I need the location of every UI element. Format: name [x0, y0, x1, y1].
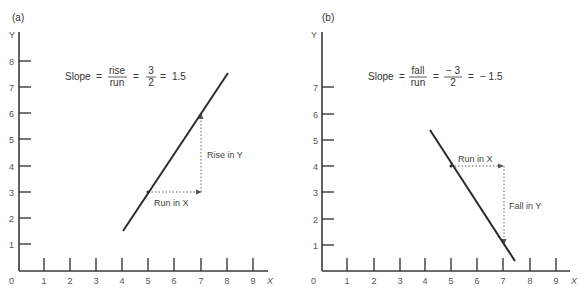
x-axis-label: X: [266, 276, 274, 286]
svg-text:7: 7: [9, 83, 14, 93]
svg-text:1: 1: [41, 276, 46, 286]
svg-text:5: 5: [145, 276, 150, 286]
svg-text:1: 1: [313, 241, 318, 251]
svg-text:− 1.5: − 1.5: [480, 71, 503, 82]
svg-text:3: 3: [9, 188, 14, 198]
svg-text:3: 3: [313, 188, 318, 198]
line-negative-slope: [430, 130, 515, 261]
y-tick-labels: 7 6 5 4 3 2 1: [313, 83, 318, 251]
svg-text:5: 5: [9, 135, 14, 145]
slope-figure: (a) Y X 0 8 7 6 5 4 3 2 1: [0, 0, 583, 291]
svg-text:2: 2: [67, 276, 72, 286]
svg-text:6: 6: [171, 276, 176, 286]
panel-b: (b) Y X 0 7 6 5 4 3 2 1: [311, 12, 578, 286]
svg-text:7: 7: [500, 276, 505, 286]
svg-text:4: 4: [9, 162, 14, 172]
svg-text:9: 9: [553, 276, 558, 286]
svg-text:7: 7: [313, 83, 318, 93]
run-label-a: Run in X: [154, 198, 189, 208]
svg-text:6: 6: [9, 109, 14, 119]
svg-text:5: 5: [313, 136, 318, 146]
svg-text:=: =: [96, 71, 102, 82]
svg-text:2: 2: [9, 214, 14, 224]
panel-b-label: (b): [322, 12, 334, 23]
x-ticks: [44, 258, 253, 271]
svg-text:5: 5: [448, 276, 453, 286]
svg-text:8: 8: [9, 57, 14, 67]
svg-text:2: 2: [148, 77, 154, 88]
fall-label-b: Fall in Y: [509, 201, 541, 211]
svg-text:8: 8: [527, 276, 532, 286]
panel-a-label: (a): [12, 12, 24, 23]
svg-text:=: =: [133, 71, 139, 82]
svg-text:4: 4: [119, 276, 124, 286]
svg-text:9: 9: [250, 276, 255, 286]
svg-text:Slope: Slope: [65, 71, 91, 82]
svg-text:=: =: [399, 71, 405, 82]
svg-text:rise: rise: [109, 65, 126, 76]
x-ticks: [347, 258, 556, 271]
y-axis-label: Y: [311, 30, 317, 40]
x-tick-labels: 1 2 3 4 5 6 7 8 9: [344, 276, 558, 286]
y-axis-label: Y: [9, 30, 15, 40]
x-tick-labels: 1 2 3 4 5 6 7 8 9: [41, 276, 255, 286]
arrowhead-icon: [498, 164, 504, 169]
panel-a: (a) Y X 0 8 7 6 5 4 3 2 1: [9, 12, 274, 286]
svg-text:fall: fall: [412, 65, 425, 76]
origin-label: 0: [311, 276, 316, 286]
y-ticks: [322, 87, 334, 245]
y-tick-labels: 8 7 6 5 4 3 2 1: [9, 57, 14, 250]
point-5-4: [450, 165, 453, 168]
point-5-3: [147, 191, 150, 194]
svg-text:run: run: [411, 77, 425, 88]
run-label-b: Run in X: [458, 154, 493, 164]
svg-text:6: 6: [313, 110, 318, 120]
svg-text:8: 8: [224, 276, 229, 286]
svg-text:3: 3: [93, 276, 98, 286]
svg-text:2: 2: [313, 215, 318, 225]
svg-text:1.5: 1.5: [172, 71, 186, 82]
svg-text:4: 4: [422, 276, 427, 286]
svg-text:=: =: [160, 71, 166, 82]
svg-text:3: 3: [397, 276, 402, 286]
svg-text:=: =: [433, 71, 439, 82]
rise-label-a: Rise in Y: [207, 150, 243, 160]
svg-text:2: 2: [371, 276, 376, 286]
svg-text:Slope: Slope: [368, 71, 394, 82]
origin-label: 0: [9, 276, 14, 286]
svg-text:1: 1: [344, 276, 349, 286]
slope-equation-b: Slope = fall run = − 3 2 = − 1.5: [368, 65, 503, 88]
slope-equation-a: Slope = rise run = 3 2 = 1.5: [65, 65, 186, 88]
svg-text:run: run: [110, 77, 124, 88]
svg-text:7: 7: [198, 276, 203, 286]
svg-text:1: 1: [9, 240, 14, 250]
svg-text:=: =: [468, 71, 474, 82]
x-axis-label: X: [570, 276, 578, 286]
svg-text:4: 4: [313, 162, 318, 172]
svg-text:6: 6: [474, 276, 479, 286]
y-ticks: [19, 61, 31, 244]
svg-text:− 3: − 3: [446, 65, 461, 76]
svg-text:2: 2: [450, 77, 456, 88]
svg-text:3: 3: [148, 65, 154, 76]
